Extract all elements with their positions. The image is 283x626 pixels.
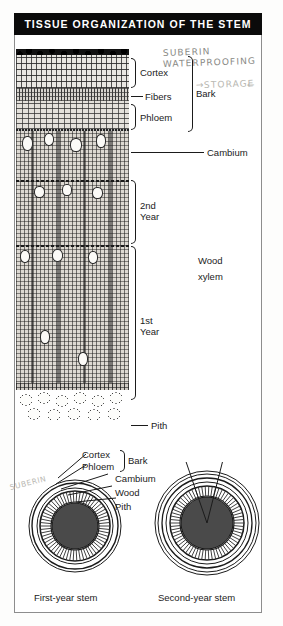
xylem-vessel: [88, 251, 98, 264]
xylem-ray: [109, 131, 112, 390]
pith-leader-line: [76, 498, 116, 502]
label-xs-cortex: Cortex: [82, 449, 110, 460]
label-xs-wood: Wood: [115, 487, 140, 498]
xylem-vessel: [96, 134, 106, 148]
xylem-vessel: [78, 352, 88, 366]
figure-title-bar: TISSUE ORGANIZATION OF THE STEM: [14, 13, 262, 35]
label-pith: Pith: [151, 420, 167, 431]
xylem-vessel: [92, 187, 103, 199]
phloem-brace: [131, 104, 136, 130]
label-bark: Bark: [196, 88, 216, 99]
xylem-vessel: [70, 138, 82, 152]
xylem-vessel: [62, 184, 72, 196]
second-year-brace: [131, 180, 136, 244]
figure-page: TISSUE ORGANIZATION OF THE STEM: [0, 0, 283, 626]
label-fibers: Fibers: [145, 91, 171, 102]
fiber-tissue: [16, 88, 129, 101]
cambium-leader-line: [131, 152, 204, 153]
label-first-year: 1st: [140, 315, 153, 326]
first-year-brace: [131, 246, 136, 400]
caption-second-year-stem: Second-year stem: [158, 592, 235, 603]
label-wood: Wood: [198, 255, 223, 266]
label-cambium: Cambium: [207, 147, 248, 158]
xylem-vessel: [20, 250, 30, 263]
label-xs-bark: Bark: [128, 455, 148, 466]
handwritten-suberin-annotation: SUBERIN: [163, 46, 211, 58]
cortex-tissue: [16, 55, 129, 88]
label-phloem: Phloem: [140, 112, 172, 123]
label-second-year: 2nd: [140, 200, 156, 211]
cortex-brace: [131, 58, 136, 88]
xylem-ray: [31, 131, 34, 390]
xs-bark-brace: [120, 450, 125, 472]
xylem-vessel: [44, 133, 54, 146]
wood-leader-line: [68, 486, 112, 495]
pith-leader-line: [131, 425, 148, 426]
label-cortex: Cortex: [140, 67, 168, 78]
label-xylem: xylem: [198, 271, 223, 282]
label-second-year-line2: Year: [140, 211, 159, 222]
xylem-vessel: [52, 249, 63, 262]
label-xs-phloem: Phloem: [82, 461, 114, 472]
pith-tissue: [16, 390, 129, 420]
label-first-year-line2: Year: [140, 326, 159, 337]
second-year-stem-cross-section: [148, 462, 266, 580]
bark-brace: [188, 56, 193, 132]
xylem-vessel: [34, 186, 45, 198]
fibers-leader-line: [131, 96, 143, 97]
xylem-vessel: [22, 136, 33, 151]
handwritten-storage-arrow-right-icon: ←: [247, 80, 256, 90]
caption-first-year-stem: First-year stem: [34, 592, 97, 603]
xylem-vessel: [40, 330, 50, 344]
page-title: TISSUE ORGANIZATION OF THE STEM: [24, 18, 251, 30]
phloem-tissue: [16, 101, 129, 129]
label-xs-pith: Pith: [115, 501, 131, 512]
